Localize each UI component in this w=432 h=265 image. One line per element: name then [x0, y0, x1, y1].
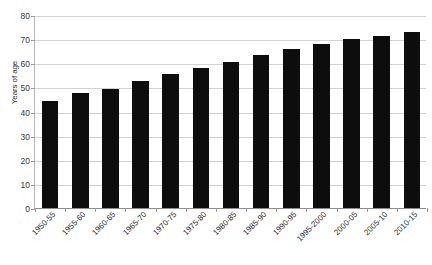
bar [373, 36, 390, 208]
y-axis-tick-labels: 01020304050607080 [8, 16, 30, 209]
y-axis-tick-label: 80 [8, 11, 30, 21]
y-axis-tick-label: 30 [8, 132, 30, 142]
y-axis-tick-label: 40 [8, 108, 30, 118]
bar [162, 74, 179, 208]
screenshot-root: Years of age 01020304050607080 1950-5519… [0, 0, 432, 265]
bar [193, 68, 210, 208]
bar [132, 81, 149, 208]
bar [42, 101, 59, 208]
y-axis-tick-label: 60 [8, 59, 30, 69]
y-axis-tick-label: 0 [8, 204, 30, 214]
bar-chart: Years of age 01020304050607080 1950-5519… [0, 0, 432, 265]
bar [223, 62, 240, 208]
bar [72, 93, 89, 208]
bar [102, 89, 119, 208]
bar [343, 39, 360, 208]
bar-series [35, 16, 426, 208]
y-axis-tick-label: 70 [8, 35, 30, 45]
bar [404, 32, 421, 208]
bar [313, 44, 330, 208]
y-axis-tick-label: 10 [8, 180, 30, 190]
x-axis-tick-labels: 1950-551955-601960-651965-701970-751975-… [34, 210, 426, 265]
y-axis-tick-label: 20 [8, 156, 30, 166]
x-axis-tick-mark [427, 208, 428, 212]
bar [253, 55, 270, 208]
plot-area [34, 16, 426, 209]
bar [283, 49, 300, 208]
y-axis-tick-label: 50 [8, 83, 30, 93]
